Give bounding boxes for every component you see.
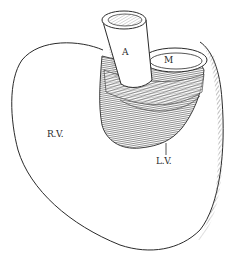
label-right-ventricle: R.V. [47, 130, 63, 139]
label-aorta: A [122, 48, 128, 57]
heart-diagram: A M R.V. L.V. [0, 0, 234, 260]
heart-drawing [0, 0, 234, 260]
label-left-ventricle: L.V. [156, 157, 171, 166]
label-mitral: M [164, 56, 173, 65]
mitral-opening [143, 48, 207, 72]
